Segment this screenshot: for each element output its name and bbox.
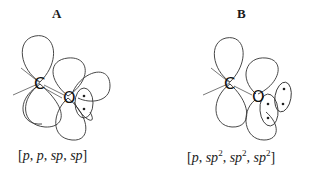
o-orbital-upper-right-lobe (72, 72, 110, 101)
panel-b-caption: [p, sp2, sp2, sp2] (187, 148, 275, 166)
lone-pair-orbital-2 (273, 81, 294, 113)
oxygen-atom: O (252, 87, 265, 106)
electron-dot (267, 103, 270, 106)
oxygen-atom: O (63, 88, 76, 107)
electron-dot (283, 88, 286, 91)
electron-dot (267, 117, 270, 120)
panel-a-diagram: C O (13, 36, 110, 140)
o-p-orbital-lower-lobe (246, 100, 276, 140)
electron-dot (83, 95, 86, 98)
carbon-atom: C (224, 74, 235, 93)
panel-a-caption: [p, p, sp, sp] (18, 148, 87, 164)
carbon-atom: C (34, 74, 45, 93)
electron-dot (282, 103, 285, 106)
panel-b-diagram: C O (203, 38, 293, 140)
lone-pair-orbital (75, 88, 93, 118)
electron-dot (83, 108, 86, 111)
